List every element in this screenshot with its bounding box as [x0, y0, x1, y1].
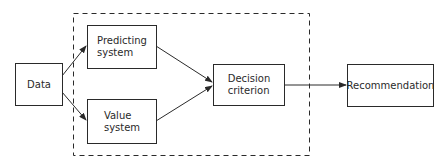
node-recommendation: Recommendation — [347, 64, 434, 107]
node-decision-criterion-label: Decision criterion — [228, 73, 271, 97]
node-recommendation-label: Recommendation — [347, 80, 435, 92]
decision-flow-diagram: Data Predicting system Value system Deci… — [0, 0, 448, 164]
node-predicting-system: Predicting system — [87, 25, 157, 69]
node-predicting-system-label: Predicting system — [97, 35, 147, 59]
node-data-label: Data — [27, 79, 51, 91]
arrow-predicting-to-decision — [156, 46, 212, 82]
node-data: Data — [15, 63, 63, 106]
arrow-data-to-value — [62, 92, 86, 120]
arrow-value-to-decision — [156, 86, 212, 121]
node-decision-criterion: Decision criterion — [213, 64, 285, 106]
node-value-system: Value system — [87, 99, 157, 144]
node-value-system-label: Value system — [104, 110, 140, 134]
